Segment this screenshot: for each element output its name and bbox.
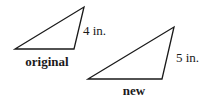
original-triangle — [15, 7, 84, 49]
similar-triangles-diagram: 4 in. original 5 in. new — [0, 0, 209, 105]
new-triangle-label: new — [123, 83, 146, 98]
original-triangle-label: original — [25, 54, 69, 69]
original-side-label: 4 in. — [83, 23, 106, 38]
new-side-label: 5 in. — [176, 50, 199, 65]
original-triangle-group: 4 in. original — [15, 7, 106, 69]
